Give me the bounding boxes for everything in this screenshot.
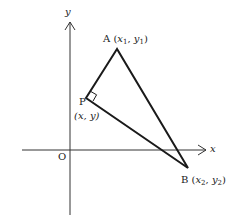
paren: ) — [222, 174, 226, 185]
point-P-coords: (x, y) — [74, 111, 99, 121]
point-A-name: A — [103, 33, 110, 44]
x-axis-label: x — [210, 144, 216, 154]
point-B-name: B — [181, 174, 188, 185]
y-axis-label: y — [65, 7, 71, 17]
right-angle-marker — [90, 91, 96, 101]
paren: ) — [144, 33, 148, 44]
point-B-label: B (x2, y2) — [181, 175, 226, 187]
origin-label: O — [58, 152, 66, 162]
point-P-label: P — [79, 97, 86, 107]
coordinate-diagram: y x O A (x1, y1) P (x, y) B (x2, y2) — [0, 0, 236, 219]
point-A-label: A (x1, y1) — [103, 34, 148, 46]
